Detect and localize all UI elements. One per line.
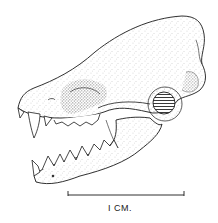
scale-bar (68, 191, 184, 196)
scale-bar-label: I CM. (100, 203, 140, 213)
auditory-bulla (148, 87, 182, 121)
skull-illustration (0, 0, 218, 223)
